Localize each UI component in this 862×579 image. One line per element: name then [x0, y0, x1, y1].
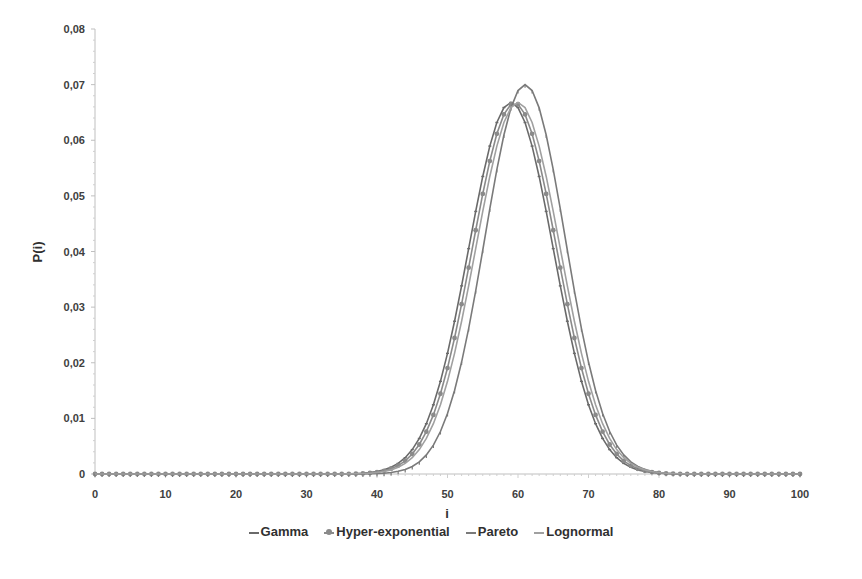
series-layer: [93, 85, 803, 477]
x-axis-title: i: [445, 506, 449, 521]
series-hyper-exponential: [93, 102, 803, 477]
legend-item-pareto[interactable]: Pareto: [466, 524, 518, 539]
legend-label: Gamma: [261, 524, 309, 539]
legend-label: Pareto: [478, 524, 518, 539]
x-tick-label: 60: [512, 488, 524, 500]
y-tick-label: 0,03: [64, 301, 85, 313]
x-tick-label: 10: [159, 488, 171, 500]
x-tick-label: 50: [441, 488, 453, 500]
series-pareto: [95, 85, 800, 477]
series-gamma: [94, 102, 802, 474]
x-axis: 0102030405060708090100: [92, 474, 809, 500]
x-tick-label: 100: [791, 488, 809, 500]
x-tick-label: 70: [582, 488, 594, 500]
legend-item-hyper-exponential[interactable]: Hyper-exponential: [324, 524, 449, 539]
x-tick-label: 80: [653, 488, 665, 500]
x-tick-label: 40: [371, 488, 383, 500]
y-tick-label: 0,06: [64, 134, 85, 146]
y-tick-label: 0,08: [64, 23, 85, 35]
y-tick-label: 0,05: [64, 190, 85, 202]
line-swatch-icon: [466, 527, 476, 537]
x-tick-label: 90: [723, 488, 735, 500]
y-axis-title: P(i): [30, 242, 45, 263]
legend: Gamma Hyper-exponential Pareto Lognormal: [0, 524, 862, 539]
y-tick-label: 0,01: [64, 412, 85, 424]
x-tick-label: 0: [92, 488, 98, 500]
legend-label: Lognormal: [546, 524, 613, 539]
line-swatch-icon: [249, 527, 259, 537]
y-tick-label: 0: [79, 468, 85, 480]
x-tick-label: 30: [300, 488, 312, 500]
y-tick-label: 0,07: [64, 79, 85, 91]
series-lognormal: [95, 102, 800, 474]
y-axis: 00,010,020,030,040,050,060,070,08: [64, 23, 95, 480]
circle-marker-icon: [324, 527, 334, 537]
legend-label: Hyper-exponential: [336, 524, 449, 539]
line-chart: 00,010,020,030,040,050,060,070,08 010203…: [0, 0, 862, 579]
legend-item-gamma[interactable]: Gamma: [249, 524, 309, 539]
x-tick-label: 20: [230, 488, 242, 500]
legend-item-lognormal[interactable]: Lognormal: [534, 524, 613, 539]
y-tick-label: 0,04: [64, 246, 86, 258]
line-swatch-icon: [534, 527, 544, 537]
y-tick-label: 0,02: [64, 357, 85, 369]
